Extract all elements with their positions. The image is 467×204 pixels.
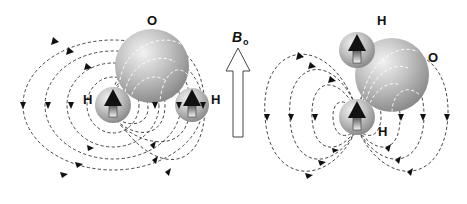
diagram-canvas: O H H B o — [0, 0, 467, 204]
oxygen-label: O — [147, 13, 157, 28]
magnetic-field-b0: B o — [226, 29, 250, 137]
oxygen-label: O — [428, 50, 438, 65]
field-label: B — [232, 29, 242, 45]
left-water-molecule: O H H — [83, 13, 220, 123]
hydrogen-label: H — [377, 13, 386, 28]
dipolar-field-diagram: O H H B o — [0, 0, 467, 204]
hydrogen-label: H — [211, 92, 220, 107]
hydrogen-label: H — [378, 124, 387, 139]
hydrogen-label: H — [83, 92, 92, 107]
field-label-subscript: o — [243, 37, 249, 47]
oxygen-atom — [115, 29, 189, 103]
field-direction-arrow-icon — [226, 48, 250, 137]
